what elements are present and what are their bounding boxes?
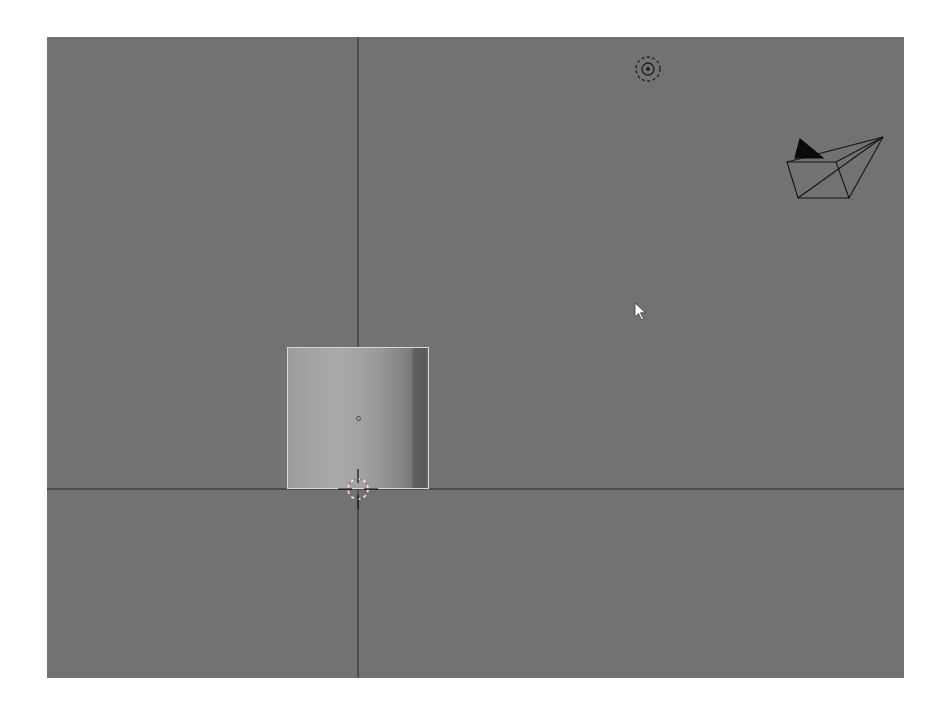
object-origin-icon (356, 416, 361, 421)
light-icon[interactable] (636, 57, 660, 81)
3d-viewport[interactable] (47, 37, 904, 678)
3d-cursor-icon[interactable] (338, 469, 378, 509)
cylinder-object[interactable] (287, 347, 429, 489)
viewport-scene (47, 37, 904, 678)
mouse-pointer-icon (634, 302, 648, 322)
page (0, 0, 947, 715)
camera-icon[interactable] (787, 137, 883, 198)
